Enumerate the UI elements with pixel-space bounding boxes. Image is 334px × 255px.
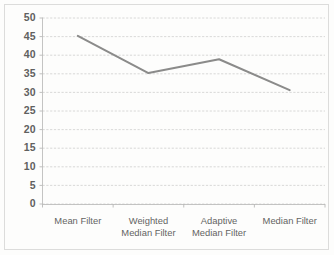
y-axis-tick-label: 45 — [24, 30, 36, 42]
x-axis-category-label: Median Filter — [121, 227, 175, 238]
y-axis-tick-label: 30 — [24, 86, 36, 98]
x-axis-category-label: Median Filter — [192, 227, 246, 238]
chart-plot-area: 50454035302520151050 Mean FilterWeighted… — [0, 0, 334, 255]
y-axis-tick-label: 5 — [30, 179, 36, 191]
x-axis-category-label: Mean Filter — [54, 215, 101, 226]
y-axis-tick-label: 40 — [24, 48, 36, 60]
y-axis-tick-label: 35 — [24, 67, 36, 79]
x-axis-category-label: Weighted — [129, 215, 168, 226]
y-axis-tick-label: 25 — [24, 104, 36, 116]
y-axis-tick-label: 15 — [24, 141, 36, 153]
y-axis-tick-label: 50 — [24, 11, 36, 23]
y-axis-tick-label: 20 — [24, 123, 36, 135]
y-axis-tick-labels: 50454035302520151050 — [24, 11, 36, 209]
x-axis-tick-labels: Mean FilterWeightedMedian FilterAdaptive… — [54, 215, 316, 238]
y-axis-tick-label: 0 — [30, 197, 36, 209]
x-axis-category-label: Median Filter — [263, 215, 317, 226]
x-axis-category-label: Adaptive — [201, 215, 237, 226]
y-axis-tick-label: 10 — [24, 160, 36, 172]
y-gridlines — [43, 18, 326, 204]
data-series-line — [78, 36, 290, 90]
line-chart-figure: 50454035302520151050 Mean FilterWeighted… — [0, 0, 334, 255]
